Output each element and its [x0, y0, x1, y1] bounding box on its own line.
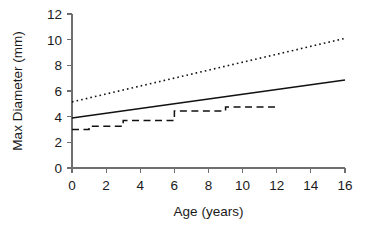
y-tick-label: 6 [54, 84, 62, 99]
series-group [72, 38, 345, 129]
y-tick-label: 12 [47, 7, 62, 22]
series-observed-step-dashed [72, 107, 277, 129]
y-axis-ticks [67, 14, 72, 168]
x-tick-label: 14 [303, 178, 319, 193]
x-tick-label: 8 [205, 178, 213, 193]
series-upper-regression-dotted [72, 38, 345, 102]
x-tick-label: 12 [269, 178, 284, 193]
x-tick-label: 6 [171, 178, 179, 193]
series-mean-regression-solid [72, 80, 345, 118]
y-tick-label: 10 [47, 33, 62, 48]
y-axis-title: Max Diameter (mm) [10, 31, 25, 150]
y-tick-label: 4 [54, 110, 62, 125]
x-axis-ticks [72, 168, 345, 173]
x-tick-label: 2 [102, 178, 110, 193]
x-tick-label: 16 [337, 178, 352, 193]
y-axis-tick-labels: 12 10 8 6 4 2 0 [47, 7, 63, 176]
x-tick-label: 10 [235, 178, 250, 193]
x-tick-label: 0 [68, 178, 76, 193]
chart-figure: 12 10 8 6 4 2 0 0 2 4 6 8 10 12 14 16 Ag… [0, 0, 366, 232]
y-tick-label: 8 [54, 58, 62, 73]
x-axis-tick-labels: 0 2 4 6 8 10 12 14 16 [68, 178, 352, 193]
y-tick-label: 2 [54, 135, 62, 150]
x-tick-label: 4 [136, 178, 144, 193]
x-axis-title: Age (years) [174, 204, 244, 219]
chart-canvas: 12 10 8 6 4 2 0 0 2 4 6 8 10 12 14 16 Ag… [0, 0, 366, 232]
y-tick-label: 0 [54, 161, 62, 176]
